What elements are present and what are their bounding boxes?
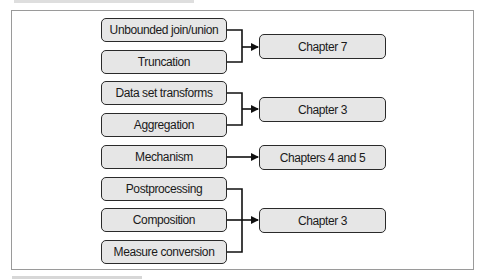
- node-data-set-transforms: Data set transforms: [101, 81, 227, 105]
- node-unbounded-join-union: Unbounded join/union: [101, 18, 227, 42]
- node-chapter-3-b: Chapter 3: [259, 208, 386, 233]
- node-chapter-3-a: Chapter 3: [259, 97, 386, 122]
- node-composition: Composition: [101, 208, 227, 232]
- connector-lines: [0, 0, 484, 279]
- node-chapters-4-and-5: Chapters 4 and 5: [259, 145, 386, 170]
- node-mechanism: Mechanism: [101, 145, 227, 169]
- node-measure-conversion: Measure conversion: [101, 240, 227, 264]
- node-chapter-7: Chapter 7: [259, 34, 386, 59]
- node-postprocessing: Postprocessing: [101, 177, 227, 201]
- node-aggregation: Aggregation: [101, 113, 227, 137]
- node-truncation: Truncation: [101, 50, 227, 74]
